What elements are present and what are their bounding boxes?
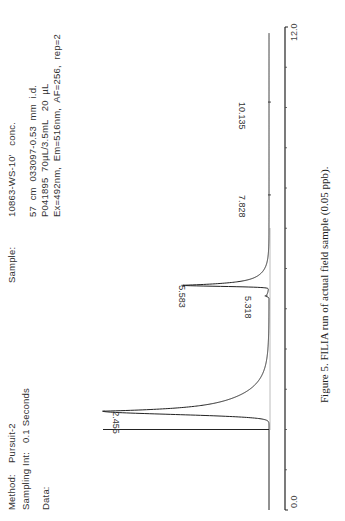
peak-label: 5.318 xyxy=(243,296,253,319)
peak-label-group: 7.828 xyxy=(237,195,247,218)
signal-trace xyxy=(103,33,269,429)
tick-label-end: 12.0 xyxy=(289,23,299,41)
figure-caption: Figure 5. FILIA run of actual field samp… xyxy=(318,167,330,403)
peak-label: 7.828 xyxy=(237,195,247,218)
peak-label: 5.583 xyxy=(177,285,187,308)
peak-label-group: 5.318 xyxy=(243,296,253,319)
peak-label-group: 5.583 xyxy=(177,285,187,308)
peak-label-group: 2.455 xyxy=(111,411,121,434)
chromatogram-page: Method: Pursuit-2 Sampling Int: 0.1 Seco… xyxy=(0,0,345,521)
chromatogram-chart: 0.012.0 2.4555.3185.5837.82810.135 xyxy=(0,0,345,521)
peak-label: 2.455 xyxy=(111,411,121,434)
peak-label-group: 10.135 xyxy=(237,102,247,130)
peak-label: 10.135 xyxy=(237,102,247,130)
tick-label-start: 0.0 xyxy=(289,495,299,508)
